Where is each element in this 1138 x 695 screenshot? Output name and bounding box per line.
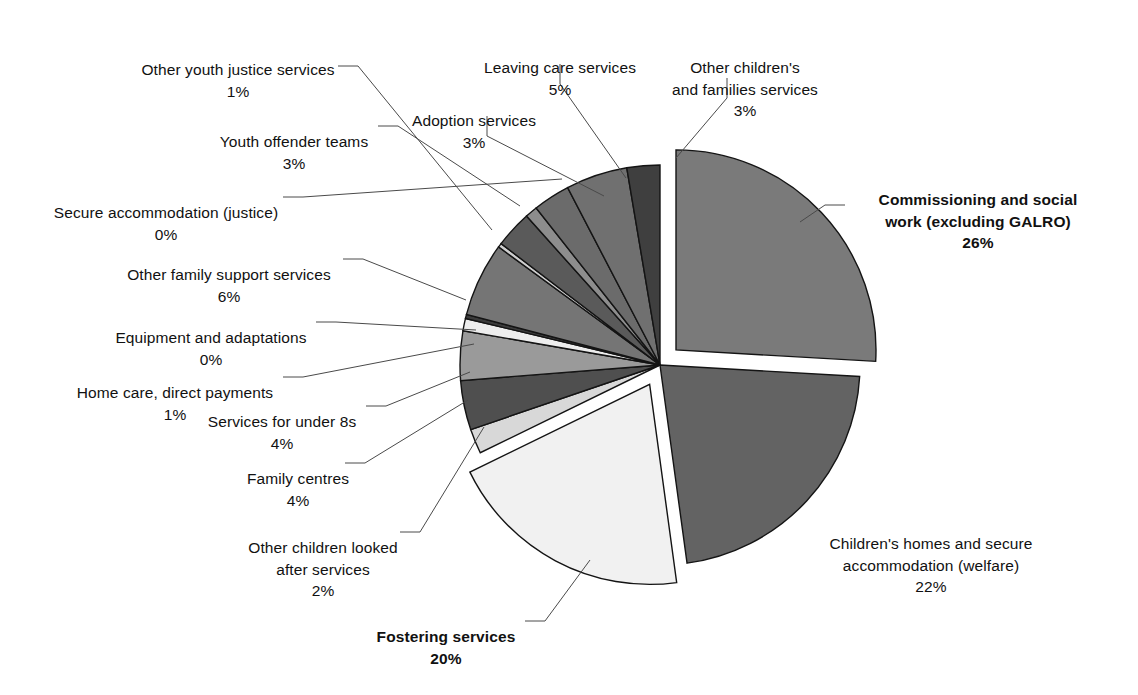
label-text: Fostering services bbox=[377, 628, 516, 645]
label-text: Services for under 8s bbox=[208, 413, 357, 430]
label-text: Commissioning and social work (excluding… bbox=[879, 191, 1078, 229]
label-text: Secure accommodation (justice) bbox=[54, 204, 278, 221]
label-text: Other children looked after services bbox=[248, 539, 397, 577]
pie-chart-page: Other youth justice services 1% Leaving … bbox=[0, 0, 1138, 695]
pie-slice[interactable] bbox=[676, 150, 876, 361]
label-percent: 3% bbox=[398, 132, 550, 153]
label-text: Equipment and adaptations bbox=[115, 329, 306, 346]
label-other-childrens-and-families-services: Other children's and families services 3… bbox=[650, 36, 840, 143]
leader-line-services-for-under-8s bbox=[366, 372, 470, 406]
label-percent: 6% bbox=[110, 286, 348, 307]
label-percent: 26% bbox=[858, 232, 1098, 253]
label-percent: 4% bbox=[228, 490, 368, 511]
label-text: Leaving care services bbox=[484, 59, 636, 76]
label-text: Youth offender teams bbox=[220, 133, 369, 150]
label-text: Children's homes and secure accommodatio… bbox=[830, 535, 1033, 573]
label-text: Other family support services bbox=[127, 266, 331, 283]
label-percent: 0% bbox=[45, 224, 287, 245]
label-text: Family centres bbox=[247, 470, 349, 487]
label-commissioning-and-social-work: Commissioning and social work (excluding… bbox=[858, 168, 1098, 275]
label-fostering-services: Fostering services 20% bbox=[362, 605, 530, 691]
label-percent: 2% bbox=[230, 580, 416, 601]
label-percent: 3% bbox=[650, 100, 840, 121]
label-percent: 20% bbox=[362, 648, 530, 669]
label-percent: 3% bbox=[205, 153, 383, 174]
label-percent: 22% bbox=[808, 576, 1054, 597]
label-text: Adoption services bbox=[412, 112, 536, 129]
leader-line-other-family-support bbox=[343, 259, 466, 300]
label-childrens-homes-and-secure-accommodation: Children's homes and secure accommodatio… bbox=[808, 512, 1054, 619]
label-percent: 1% bbox=[128, 81, 348, 102]
label-adoption-services: Adoption services 3% bbox=[398, 89, 550, 175]
label-text: Other children's and families services bbox=[672, 59, 818, 97]
label-text: Other youth justice services bbox=[141, 61, 334, 78]
